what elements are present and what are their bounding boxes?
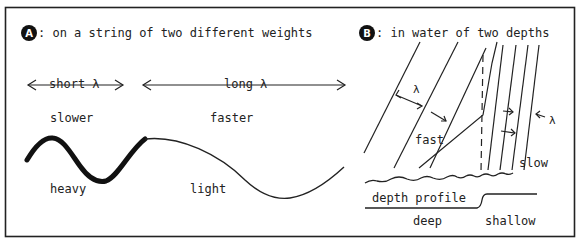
panel-a-title: : on a string of two different weights (38, 26, 313, 40)
heavy-label: heavy (50, 182, 86, 196)
faster-label: faster (210, 111, 253, 125)
fast-direction-arrow-icon (431, 112, 446, 121)
short-lambda-label: short λ (49, 77, 100, 91)
fast-label: fast (415, 133, 444, 147)
deep-wavefronts (364, 42, 497, 168)
badge-b-label: B (363, 28, 371, 39)
depth-profile-label: depth profile (372, 191, 466, 205)
shallow-wavefronts (488, 45, 539, 170)
panel-a: A : on a string of two different weights… (21, 25, 345, 198)
water-surface (365, 173, 513, 183)
shallow-label: shallow (485, 214, 536, 228)
slow-lambda-arrow-icon (536, 111, 545, 118)
panel-b-title: : in water of two depths (376, 26, 549, 40)
fast-lambda-label: λ (413, 83, 420, 96)
badge-a-label: A (25, 28, 33, 39)
slower-label: slower (50, 111, 93, 125)
wave-diagram: A : on a string of two different weights… (0, 0, 580, 247)
light-string (145, 138, 344, 198)
light-label: light (190, 182, 226, 196)
heavy-string (27, 138, 145, 182)
deep-label: deep (413, 214, 442, 228)
long-lambda-label: long λ (224, 77, 267, 91)
slow-label: slow (519, 156, 549, 170)
panel-b: B : in water of two depths λ (359, 25, 556, 228)
slow-lambda-label: λ (549, 114, 556, 127)
